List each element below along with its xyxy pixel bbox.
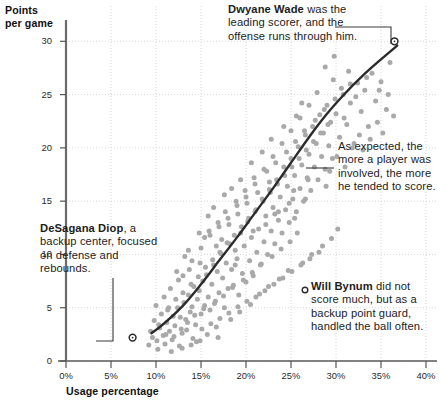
y-tick-label: 0 [30, 355, 52, 366]
y-axis-title-line2: per game [5, 17, 53, 29]
x-tick-label: 10% [136, 370, 176, 381]
y-tick-label: 25 [30, 89, 52, 100]
annotation-dwyane-wade: Dwyane Wade was the leading scorer, and … [228, 3, 378, 43]
annotation-desagana-diop-name: DeSagana Diop [40, 222, 123, 234]
annotation-trend: As expected, the more a player was invol… [338, 140, 442, 194]
x-tick-label: 30% [316, 370, 356, 381]
annotation-will-bynum: Will Bynum did not score much, but as a … [311, 280, 441, 334]
will-bynum-marker-icon [298, 283, 312, 297]
x-tick-label: 5% [91, 370, 131, 381]
annotation-desagana-diop: DeSagana Diop, a backup center, focused … [40, 222, 170, 276]
annotation-will-bynum-name: Will Bynum [311, 280, 373, 292]
scatter-chart: Points per game Usage percentage Dwyane … [0, 0, 445, 402]
plot-area [0, 0, 445, 402]
annotation-trend-text: As expected, the more a player was invol… [338, 140, 436, 192]
x-tick-label: 35% [361, 370, 401, 381]
y-axis-title: Points per game [5, 4, 53, 29]
x-tick-label: 40% [406, 370, 445, 381]
y-tick-label: 5 [30, 302, 52, 313]
x-axis-title: Usage percentage [66, 385, 159, 398]
x-tick-label: 25% [271, 370, 311, 381]
x-tick-label: 20% [226, 370, 266, 381]
annotation-dwyane-wade-name: Dwyane Wade [228, 3, 304, 15]
y-tick-label: 10 [30, 248, 52, 259]
x-tick-label: 15% [181, 370, 221, 381]
y-tick-label: 20 [30, 142, 52, 153]
x-tick-label: 0% [46, 370, 86, 381]
y-axis-title-line1: Points [5, 4, 38, 16]
y-tick-label: 30 [30, 35, 52, 46]
y-tick-label: 15 [30, 195, 52, 206]
